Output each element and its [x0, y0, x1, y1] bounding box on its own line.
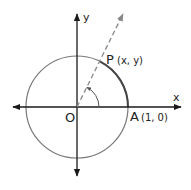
- point-a-label: A: [130, 109, 139, 124]
- y-axis-label: y: [83, 11, 90, 24]
- unit-circle-diagram: y x O A (1, 0) P (x, y): [0, 0, 191, 190]
- point-p-label: P: [106, 52, 114, 67]
- angle-arc-icon: [87, 87, 99, 107]
- point-p-coords: (x, y): [117, 55, 143, 66]
- highlighted-arc-a-to-p: [100, 62, 128, 107]
- origin-label: O: [65, 110, 75, 125]
- x-axis-label: x: [173, 91, 180, 104]
- diagram-svg: y x O A (1, 0) P (x, y): [0, 0, 191, 190]
- point-a-coords: (1, 0): [141, 112, 168, 123]
